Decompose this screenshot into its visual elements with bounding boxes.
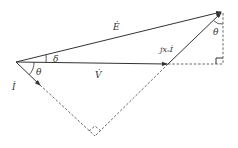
label-e: Ė bbox=[112, 21, 120, 32]
label-delta: δ bbox=[53, 54, 58, 64]
label-theta-origin: θ bbox=[36, 67, 42, 77]
right-angle-marker-corner bbox=[216, 58, 223, 64]
dashed-jxsi-extension bbox=[95, 64, 168, 136]
jxsi-phasor-arrow bbox=[168, 13, 221, 64]
right-angle-marker-bottom bbox=[89, 126, 101, 131]
label-theta-top: θ bbox=[213, 27, 219, 37]
e-phasor-arrow bbox=[16, 12, 221, 62]
v-phasor-arrow bbox=[16, 62, 167, 64]
label-jxsi: jxₛİ bbox=[158, 45, 174, 54]
phasor-diagram: Ė V̇ İ jxₛİ δ θ θ bbox=[0, 0, 238, 148]
dashed-i-extension bbox=[40, 85, 95, 136]
theta-arc-top bbox=[214, 21, 223, 24]
label-v: V̇ bbox=[95, 69, 103, 80]
theta-arc-origin bbox=[29, 62, 34, 75]
label-i: İ bbox=[11, 81, 16, 92]
